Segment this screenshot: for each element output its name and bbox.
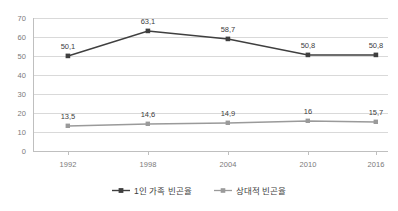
- legend-item-relative-poverty[interactable]: 상대적 빈곤율: [214, 184, 286, 196]
- x-tick-2004: 2004: [206, 160, 250, 169]
- data-label-s1-1992: 50,1: [53, 42, 83, 51]
- data-label-s2-2010: 16: [293, 107, 323, 116]
- data-label-s2-1998: 14,6: [133, 110, 163, 119]
- legend-item-single-household-poverty[interactable]: 1인 가족 빈곤율: [112, 184, 191, 196]
- legend-label-single-household-poverty: 1인 가족 빈곤율: [134, 184, 191, 196]
- y-tick-70: 70: [4, 14, 26, 23]
- y-tick-0: 0: [4, 147, 26, 156]
- gridlines: [33, 19, 388, 133]
- y-tick-10: 10: [4, 128, 26, 137]
- data-label-s1-2004: 58,7: [213, 25, 243, 34]
- y-tick-30: 30: [4, 90, 26, 99]
- x-tick-marks: [69, 152, 377, 156]
- series-line-relative-poverty: [68, 121, 376, 126]
- x-tick-2016: 2016: [354, 160, 398, 169]
- data-label-s1-2016: 50,8: [361, 41, 391, 50]
- data-label-s1-1998: 63,1: [133, 17, 163, 26]
- series-line-single-household-poverty: [68, 31, 376, 56]
- x-tick-1998: 1998: [126, 160, 170, 169]
- y-tick-40: 40: [4, 71, 26, 80]
- y-tick-50: 50: [4, 52, 26, 61]
- poverty-rate-line-chart: 70 60 50 40 30 20 10 0 1992 1998 2004 20…: [0, 0, 398, 211]
- y-tick-60: 60: [4, 33, 26, 42]
- data-label-s2-2004: 14,9: [213, 109, 243, 118]
- data-label-s1-2010: 50,8: [293, 41, 323, 50]
- x-tick-1992: 1992: [46, 160, 90, 169]
- y-tick-20: 20: [4, 109, 26, 118]
- legend-line-marker-icon: [214, 186, 232, 195]
- x-tick-2010: 2010: [286, 160, 330, 169]
- legend-label-relative-poverty: 상대적 빈곤율: [236, 184, 286, 196]
- chart-legend: 1인 가족 빈곤율 상대적 빈곤율: [0, 184, 398, 196]
- chart-plot-area: [0, 0, 398, 211]
- data-label-s2-1992: 13,5: [53, 112, 83, 121]
- legend-line-marker-icon: [112, 186, 130, 195]
- data-label-s2-2016: 15,7: [361, 108, 391, 117]
